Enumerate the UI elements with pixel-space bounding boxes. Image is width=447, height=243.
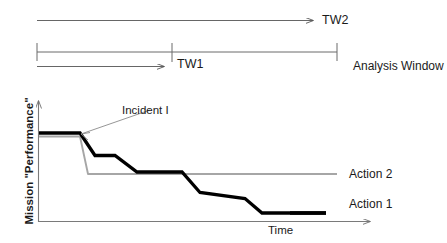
legend-swatches [290, 174, 337, 213]
series-action-2 [39, 137, 337, 175]
tw1-label: TW1 [177, 58, 203, 71]
legend-label-action-2: Action 2 [349, 168, 392, 180]
incident-label: Incident I [122, 105, 169, 117]
tw2-label: TW2 [322, 14, 348, 27]
x-axis-label: Time [268, 225, 293, 237]
chart-axes [38, 101, 370, 222]
action-2-line [39, 137, 337, 175]
figure-canvas: TW2 TW1 Analysis Window Incident I Actio… [0, 0, 447, 243]
analysis-window-label: Analysis Window [353, 60, 444, 72]
y-axis-label: Mission "Performance" [23, 96, 35, 226]
legend-label-action-1: Action 1 [349, 198, 392, 210]
